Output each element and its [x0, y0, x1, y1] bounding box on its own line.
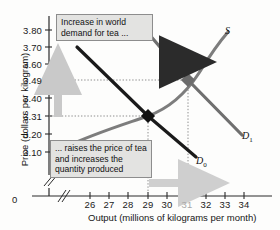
demand-initial-curve-label: D0 — [196, 155, 207, 169]
y-axis-title: Price (dollars per kilogram) — [19, 40, 30, 180]
axis-break-marks — [44, 174, 70, 202]
supply-curve — [63, 32, 228, 148]
x-tick-label: 34 — [233, 199, 255, 210]
demand-initial-subscript: 0 — [203, 161, 207, 169]
x-tick-label: 28 — [117, 199, 139, 210]
demand-increase-note: Increase in world demand for tea ... — [56, 14, 153, 41]
x-axis-title: Output (millions of kilograms per month) — [88, 212, 256, 223]
demand-new-subscript: 1 — [249, 136, 253, 144]
y-tick-label: 3.80 — [8, 25, 42, 36]
demand-new-curve-label: D1 — [242, 130, 253, 144]
supply-curve-label: S — [225, 25, 230, 36]
price-increase-note: ... raises the price of tea and increase… — [50, 140, 152, 178]
equilibrium-guides — [49, 80, 188, 196]
origin-label: 0 — [12, 194, 17, 205]
x-tick-label: 30 — [156, 199, 178, 210]
supply-demand-chart: 3.80 3.70 3.60 3.49 3.40 3.31 3.20 3.10 … — [0, 0, 280, 230]
